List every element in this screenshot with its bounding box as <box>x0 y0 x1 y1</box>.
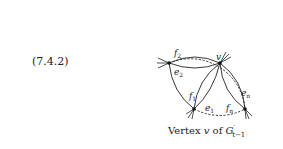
stub-edges-bottom-left <box>186 109 194 119</box>
caption-graph-sub: t−1 <box>232 131 245 139</box>
label-en: en <box>241 88 250 99</box>
stub-edges-left <box>157 58 169 68</box>
caption-vertex: v <box>204 125 210 136</box>
stub-edges-bottom-right <box>245 109 252 119</box>
vertex-bottom-right <box>243 107 247 111</box>
label-f1: f1 <box>188 91 196 102</box>
figure-caption: Vertex v of G′t−1 <box>168 124 245 139</box>
caption-prefix: Vertex <box>168 125 201 136</box>
caption-of: of <box>213 125 223 136</box>
vertex-left <box>167 61 171 65</box>
stub-edges-v <box>220 52 231 63</box>
label-e2: e2 <box>174 67 183 78</box>
label-e1: e1 <box>205 103 214 114</box>
vertex-v-label: v <box>216 52 221 62</box>
label-f2: f2 <box>173 48 181 59</box>
dashed-bottom-arc <box>194 109 245 116</box>
vertex-bottom-left <box>192 107 196 111</box>
label-fn: fn <box>225 103 233 114</box>
solid-left-arc <box>169 63 194 109</box>
